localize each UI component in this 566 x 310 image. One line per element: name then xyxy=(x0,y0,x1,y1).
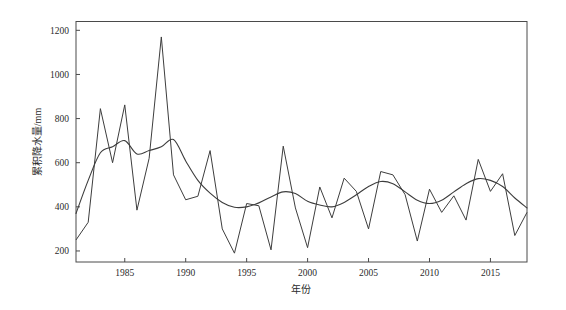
x-axis-ticks xyxy=(125,258,491,262)
x-tick-label-1990: 1990 xyxy=(176,268,195,278)
y-tick-label-200: 200 xyxy=(55,246,70,256)
chart-figure: 20040060080010001200 1985199019952000200… xyxy=(0,0,566,310)
y-axis-ticks xyxy=(76,30,80,251)
y-tick-label-600: 600 xyxy=(55,158,70,168)
x-tick-label-2000: 2000 xyxy=(298,268,317,278)
x-axis-tick-labels: 1985199019952000200520102015 xyxy=(115,268,500,278)
x-tick-label-2015: 2015 xyxy=(481,268,500,278)
y-axis-title: 累积降水量/mm xyxy=(31,108,43,177)
y-tick-label-800: 800 xyxy=(55,114,70,124)
y-tick-label-1000: 1000 xyxy=(50,70,69,80)
x-tick-label-1985: 1985 xyxy=(115,268,134,278)
data-series-group xyxy=(76,37,527,253)
plot-frame xyxy=(76,22,527,263)
y-axis-tick-labels: 20040060080010001200 xyxy=(50,26,69,257)
x-tick-label-2010: 2010 xyxy=(420,268,439,278)
x-tick-label-2005: 2005 xyxy=(359,268,378,278)
y-tick-label-1200: 1200 xyxy=(50,26,69,36)
y-tick-label-400: 400 xyxy=(55,202,70,212)
x-axis-title: 年份 xyxy=(291,283,311,295)
x-tick-label-1995: 1995 xyxy=(237,268,256,278)
axes-box xyxy=(76,22,527,263)
series-annual-precipitation xyxy=(76,37,527,253)
precipitation-line-chart: 20040060080010001200 1985199019952000200… xyxy=(0,0,566,310)
series-smoothed-precipitation xyxy=(76,139,527,213)
